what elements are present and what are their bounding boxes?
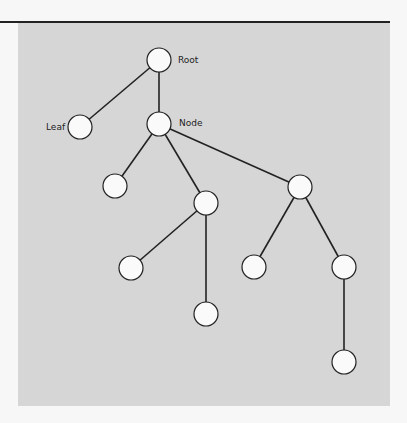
tree-node-leaf (68, 115, 92, 139)
tree-node-b1 (119, 256, 143, 280)
tree-diagram: Root Leaf Node (0, 0, 407, 423)
tree-node-c1 (242, 255, 266, 279)
edge-node-b (159, 124, 206, 203)
tree-node-c (288, 175, 312, 199)
tree-node-root (147, 48, 171, 72)
leaf-label: Leaf (46, 122, 66, 132)
tree-node-c2 (332, 255, 356, 279)
tree-node-b (194, 191, 218, 215)
tree-node-c2a (332, 350, 356, 374)
edge-root-leaf (80, 60, 159, 127)
tree-node-node (147, 112, 171, 136)
edge-c-c2 (300, 187, 344, 267)
node-label: Node (179, 118, 203, 128)
edge-b-b1 (131, 203, 206, 268)
tree-node-a (103, 174, 127, 198)
edge-node-c (159, 124, 300, 187)
root-label: Root (178, 55, 199, 65)
tree-node-b2 (194, 302, 218, 326)
edge-c-c1 (254, 187, 300, 267)
